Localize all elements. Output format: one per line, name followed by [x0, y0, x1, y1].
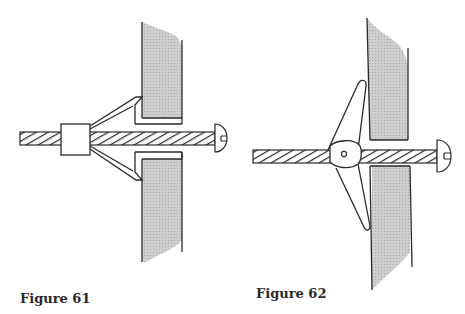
- bolt-shaft: [20, 132, 215, 145]
- wall-upper-section: [367, 18, 408, 140]
- figure-61-drawing: [20, 22, 227, 262]
- diagram-canvas: [0, 0, 465, 314]
- figure-62-drawing: [253, 18, 451, 290]
- wall-lower-section: [370, 166, 412, 290]
- bolt-head: [437, 140, 451, 172]
- anchor-nut: [61, 124, 90, 155]
- wall-lower-section: [142, 152, 182, 262]
- figure-62-caption: Figure 62: [256, 286, 326, 301]
- bolt-head: [215, 124, 227, 152]
- wall-upper-section: [142, 22, 182, 118]
- figure-61-caption: Figure 61: [20, 291, 90, 306]
- toggle-pivot: [330, 141, 361, 168]
